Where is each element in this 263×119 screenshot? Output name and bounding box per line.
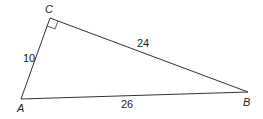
side-label-ab: 26 <box>121 98 133 110</box>
side-label-ac: 10 <box>23 52 35 64</box>
triangle-diagram: C A B 10 24 26 <box>0 0 263 119</box>
side-label-cb: 24 <box>137 37 149 49</box>
triangle-abc <box>21 18 248 99</box>
vertex-label-c: C <box>45 3 53 15</box>
vertex-label-a: A <box>16 102 24 114</box>
vertex-label-b: B <box>243 96 250 108</box>
